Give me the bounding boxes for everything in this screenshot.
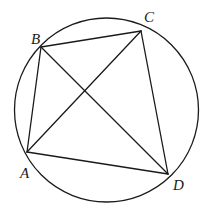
point-label-c: C [144, 9, 155, 25]
point-label-b: B [31, 31, 40, 47]
diagram-svg: A B C D [0, 0, 207, 209]
segment-da [27, 152, 168, 174]
circumcircle [15, 18, 199, 202]
geometry-diagram: A B C D [0, 0, 207, 209]
segment-ac [27, 31, 141, 152]
segments-group [27, 31, 168, 174]
segment-ab [27, 47, 41, 152]
point-label-d: D [172, 177, 184, 193]
point-label-a: A [19, 165, 30, 181]
segment-bd [41, 47, 168, 174]
segment-cd [141, 31, 168, 174]
